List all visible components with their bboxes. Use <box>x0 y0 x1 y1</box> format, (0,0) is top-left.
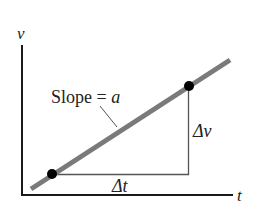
y-axis-label: v <box>17 24 25 43</box>
delta-v-label: Δv <box>192 121 212 141</box>
upper-point <box>184 81 194 91</box>
slope-leader-line <box>100 106 117 127</box>
slope-label-prefix: Slope = <box>51 87 111 107</box>
lower-point <box>47 169 57 179</box>
x-axis-label: t <box>237 186 243 205</box>
slope-label-var: a <box>111 87 120 107</box>
slope-label: Slope = a <box>51 87 120 107</box>
delta-t-label: Δt <box>111 176 129 196</box>
velocity-time-diagram: v t Slope = a Δv Δt <box>0 0 261 213</box>
